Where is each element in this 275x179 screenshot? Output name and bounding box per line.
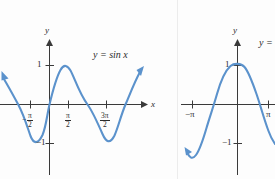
x-tick-label-pi-over-2: π 2	[65, 112, 71, 129]
equation-label-sine: y = sin x	[93, 50, 128, 60]
denominator: 2	[100, 121, 110, 129]
x-tick-label-neg-pi: −π	[185, 110, 195, 119]
y-tick-label-one-sine: 1	[37, 60, 42, 69]
y-axis-cosine	[234, 39, 241, 175]
cosine-plot-svg	[179, 0, 275, 179]
sine-plot-svg	[0, 0, 177, 179]
y-axis-label-cosine: y	[233, 26, 237, 35]
sine-plot-panel: y x 1 −1 − π 2 π 2 3π 2 y = sin x	[0, 0, 177, 179]
y-tick-label-negative-one-cosine: −1	[222, 138, 232, 147]
equation-label-cosine: y =	[259, 38, 273, 48]
y-tick-label-one-cosine: 1	[225, 60, 230, 69]
denominator: 2	[65, 121, 71, 129]
figure-container: y x 1 −1 − π 2 π 2 3π 2 y = sin x	[0, 0, 275, 179]
y-axis-label-sine: y	[45, 26, 49, 35]
x-tick-label-three-pi-over-2: 3π 2	[100, 112, 110, 129]
minus-sign: −	[22, 116, 26, 124]
x-tick-label-neg-pi-over-2: − π 2	[27, 112, 33, 129]
y-tick-label-negative-one-sine: −1	[36, 138, 46, 147]
sine-curve	[2, 66, 145, 142]
denominator: 2	[27, 121, 33, 129]
x-tick-label-pi: π	[266, 110, 271, 119]
panel-divider	[177, 0, 178, 179]
cosine-plot-panel: y 1 −1 −π π y =	[179, 0, 275, 179]
x-axis-label-sine: x	[151, 100, 155, 109]
